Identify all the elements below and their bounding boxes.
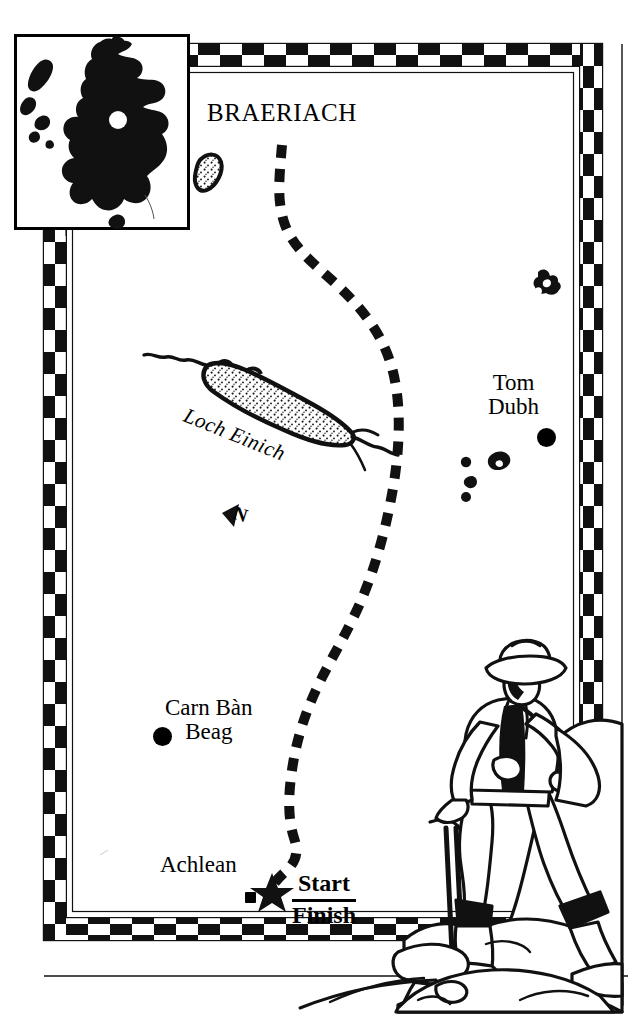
label-carn-ban-line2: Beag xyxy=(165,720,253,744)
page-title: BRAERIACH xyxy=(207,100,357,127)
start-label: Start xyxy=(292,871,356,897)
start-finish-label: Start Finish xyxy=(292,871,356,929)
map-figure: BRAERIACH Tom Dubh Carn Bàn Beag Achlean… xyxy=(0,0,641,1033)
marker-carn-ban-beag xyxy=(153,727,172,746)
scotland-silhouette xyxy=(17,37,187,227)
finish-label: Finish xyxy=(292,903,356,929)
inset-locator-box xyxy=(14,34,190,230)
label-tom-dubh-line2: Dubh xyxy=(488,395,539,419)
label-tom-dubh-line1: Tom xyxy=(488,371,539,395)
label-carn-ban-line1: Carn Bàn xyxy=(165,696,253,720)
location-marker-dot xyxy=(109,111,127,129)
label-tom-dubh: Tom Dubh xyxy=(488,371,539,420)
marker-achlean xyxy=(245,892,256,903)
label-carn-ban-beag: Carn Bàn Beag xyxy=(165,696,253,745)
marker-tom-dubh xyxy=(537,428,556,447)
label-achlean: Achlean xyxy=(160,853,237,877)
